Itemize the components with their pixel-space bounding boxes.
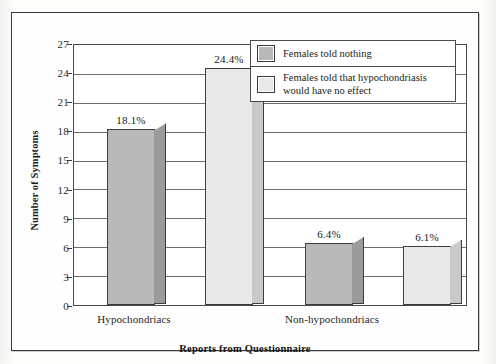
- data-label-6-1: 6.1%: [392, 231, 462, 243]
- y-tick-mark-21: [67, 102, 72, 103]
- x-axis-title: Reports from Questionnaire: [12, 343, 478, 354]
- y-tick-mark-18: [67, 131, 72, 132]
- bar-side-panel: [450, 240, 462, 304]
- y-tick-label-3: 3: [17, 271, 69, 283]
- y-axis-ticks: 27 24 21 18 15 12 9 6 3 0: [12, 44, 69, 306]
- y-tick-label-18: 18: [17, 125, 69, 137]
- y-tick-label-12: 12: [17, 184, 69, 196]
- y-tick-mark-15: [67, 160, 72, 161]
- bar-hypochondriacs-told-nothing[interactable]: [107, 129, 155, 305]
- legend-label: Females told that hypochondriasis would …: [283, 71, 449, 97]
- bar-side-panel: [154, 123, 166, 304]
- y-tick-label-27: 27: [17, 38, 69, 50]
- bar-hypochondriacs-told-no-effect[interactable]: [205, 68, 253, 305]
- legend-swatch-icon: [257, 76, 275, 93]
- y-tick-mark-27: [67, 44, 72, 45]
- y-tick-mark-9: [67, 219, 72, 220]
- y-tick-label-24: 24: [17, 67, 69, 79]
- legend-item-told-no-effect[interactable]: Females told that hypochondriasis would …: [251, 66, 455, 101]
- chart-page: Number of Symptoms 27 24 21 18 15 12 9 6…: [0, 0, 496, 364]
- legend: Females told nothing Females told that h…: [250, 40, 456, 102]
- y-tick-label-9: 9: [17, 213, 69, 225]
- bar-side-panel: [352, 237, 364, 304]
- y-tick-mark-6: [67, 248, 72, 249]
- x-category-non-hypochondriacs: Non-hypochondriacs: [242, 313, 422, 325]
- y-tick-mark-24: [67, 73, 72, 74]
- y-tick-mark-0: [67, 306, 72, 307]
- y-tick-label-0: 0: [17, 300, 69, 312]
- data-label-18-1: 18.1%: [96, 114, 166, 126]
- y-tick-mark-3: [67, 277, 72, 278]
- y-tick-mark-12: [67, 190, 72, 191]
- figure-frame: Number of Symptoms 27 24 21 18 15 12 9 6…: [11, 12, 479, 351]
- data-label-6-4: 6.4%: [294, 228, 364, 240]
- bar-non-hypochondriacs-told-no-effect[interactable]: [403, 246, 451, 305]
- bar-non-hypochondriacs-told-nothing[interactable]: [305, 243, 353, 305]
- y-tick-label-15: 15: [17, 154, 69, 166]
- legend-item-told-nothing[interactable]: Females told nothing: [251, 41, 455, 66]
- gridline-21: [74, 103, 466, 104]
- x-category-hypochondriacs: Hypochondriacs: [44, 313, 224, 325]
- y-tick-label-6: 6: [17, 242, 69, 254]
- y-tick-label-21: 21: [17, 96, 69, 108]
- legend-swatch-icon: [257, 45, 275, 62]
- legend-label: Females told nothing: [283, 47, 372, 60]
